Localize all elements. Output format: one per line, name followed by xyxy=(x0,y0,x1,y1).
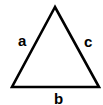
triangle-diagram: a c b xyxy=(0,0,103,105)
label-side-a: a xyxy=(18,32,27,49)
label-side-c: c xyxy=(84,33,92,50)
label-side-b: b xyxy=(54,90,63,105)
